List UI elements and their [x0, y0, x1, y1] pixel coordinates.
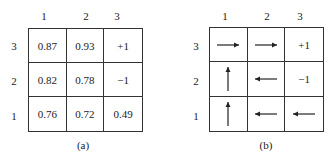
- arrow-left-icon: [289, 99, 319, 129]
- grid-cell-terminal-negative: −1: [104, 63, 142, 97]
- grid-cell-terminal-positive: +1: [104, 29, 142, 63]
- panel-caption: (b): [246, 139, 286, 151]
- col-label-1: 1: [215, 10, 235, 22]
- grid-cell-policy: [248, 28, 286, 62]
- grid-cell-policy: [248, 97, 286, 131]
- grid-cell-terminal: −1: [285, 62, 323, 96]
- utility-grid: 0.87 0.93 +1 0.82 0.78 −1 0.76 0.72 0.49: [28, 28, 143, 132]
- row-label-1: 1: [4, 110, 24, 122]
- grid-cell: 0.93: [67, 29, 105, 63]
- row-label-1: 1: [186, 110, 206, 122]
- arrow-up-icon: [213, 99, 243, 129]
- col-label-2: 2: [257, 10, 277, 22]
- arrow-left-icon: [251, 99, 281, 129]
- arrow-right-icon: [251, 30, 281, 60]
- panel-b-policy-grid: 1 2 3 3 2 1 +1−1 (b): [166, 0, 332, 159]
- policy-grid: +1−1: [209, 27, 324, 132]
- col-label-3: 3: [107, 10, 127, 22]
- terminal-reward-label: +1: [298, 39, 310, 51]
- row-label-2: 2: [186, 75, 206, 87]
- arrow-up-icon: [213, 64, 243, 94]
- row-label-3: 3: [186, 40, 206, 52]
- grid-cell: 0.76: [29, 97, 67, 131]
- col-label-3: 3: [290, 10, 310, 22]
- col-label-1: 1: [34, 10, 54, 22]
- grid-cell-policy: [248, 62, 286, 96]
- grid-cell-terminal: +1: [285, 28, 323, 62]
- row-label-3: 3: [4, 40, 24, 52]
- row-label-2: 2: [4, 75, 24, 87]
- grid-cell: 0.82: [29, 63, 67, 97]
- panel-caption: (a): [63, 139, 103, 151]
- grid-cell: 0.49: [104, 97, 142, 131]
- grid-cell: 0.78: [67, 63, 105, 97]
- arrow-right-icon: [213, 30, 243, 60]
- col-label-2: 2: [76, 10, 96, 22]
- grid-cell: 0.87: [29, 29, 67, 63]
- grid-cell-policy: [210, 28, 248, 62]
- grid-cell: 0.72: [67, 97, 105, 131]
- terminal-reward-label: −1: [298, 73, 310, 85]
- grid-cell-policy: [210, 62, 248, 96]
- grid-cell-policy: [210, 97, 248, 131]
- grid-cell-policy: [285, 97, 323, 131]
- arrow-left-icon: [251, 64, 281, 94]
- panel-a-utility-grid: 1 2 3 3 2 1 0.87 0.93 +1 0.82 0.78 −1 0.…: [0, 0, 166, 159]
